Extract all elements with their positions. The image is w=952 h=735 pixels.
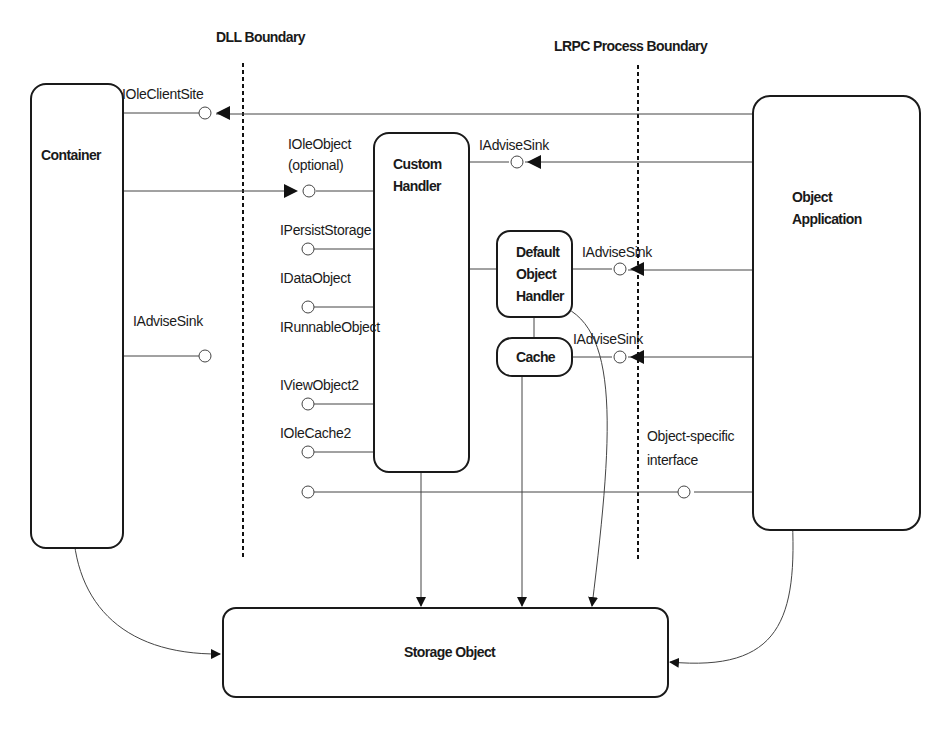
iadvise-sink-cache-label: IAdviseSink [573,331,643,348]
iadvise-sink-custom-socket [511,156,523,168]
iadvise-sink-cache-socket [614,351,626,363]
iole-object-label-line2: (optional) [288,157,343,174]
iole-client-site-label: IOleClientSite [122,86,203,103]
iview-object2-label: IViewObject2 [280,377,359,394]
object-application-label-line1: Object [792,189,832,206]
iole-cache2-socket [302,446,314,458]
iadvise-sink-container-socket [199,350,211,362]
default-handler-label-line3: Handler [516,288,564,305]
cache-box: Cache [496,337,573,377]
irunnable-object-label: IRunnableObject [280,319,380,336]
iview-object2-socket [302,398,314,410]
arrowhead-iole-object [284,184,298,198]
object-specific-socket-left [302,486,314,498]
storage-object-box: Storage Object [222,607,669,698]
iole-object-socket [303,185,315,197]
custom-handler-label-line2: Handler [393,178,441,195]
default-handler-label-line1: Default [516,244,559,261]
object-specific-socket-right [678,486,690,498]
cache-label: Cache [516,349,555,366]
ole-handler-architecture-diagram: DLL Boundary LRPC Process Boundary Conta… [0,0,952,735]
default-object-handler-box: Default Object Handler [496,230,573,318]
object-application-label-line2: Application [792,211,862,228]
ipersist-storage-socket [302,243,314,255]
custom-handler-box: Custom Handler [373,132,470,473]
idata-object-socket [302,301,314,313]
iole-cache2-label: IOleCache2 [280,425,351,442]
object-specific-label-line1: Object-specific [647,428,734,445]
iadvise-sink-default-socket [614,263,626,275]
lrpc-boundary-label: LRPC Process Boundary [554,38,707,55]
object-specific-label-line2: interface [647,452,698,469]
idata-object-label: IDataObject [280,270,351,287]
iadvise-sink-container-label: IAdviseSink [133,313,203,330]
iole-client-site-socket [199,107,211,119]
iole-object-label-line1: IOleObject [288,136,351,153]
container-label: Container [41,147,101,164]
arrowhead-iadvise-sink-custom [527,155,541,169]
default-handler-label-line2: Object [516,266,556,283]
storage-object-label: Storage Object [404,644,495,661]
object-application-box: Object Application [752,95,921,531]
custom-handler-label-line1: Custom [393,156,442,173]
ipersist-storage-label: IPersistStorage [280,222,371,239]
dll-boundary-label: DLL Boundary [216,29,305,46]
iadvise-sink-default-label: IAdviseSink [582,244,652,261]
iadvise-sink-custom-label: IAdviseSink [479,137,549,154]
container-box: Container [30,83,124,549]
arrowhead-iole-client-site [216,106,230,120]
